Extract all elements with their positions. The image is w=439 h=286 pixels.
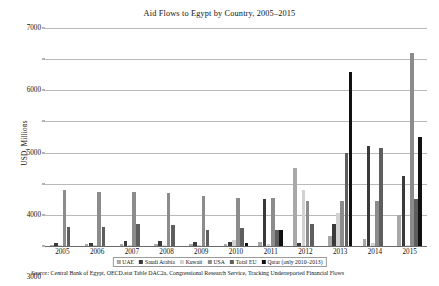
- x-tick-label: 2005: [55, 248, 69, 256]
- legend-label: Qatar (only 2010–2013): [267, 259, 322, 265]
- bar: [332, 224, 336, 246]
- bar: [154, 244, 158, 246]
- bar: [397, 215, 401, 246]
- bar: [275, 230, 279, 246]
- bar: [167, 193, 171, 246]
- bar: [236, 198, 240, 246]
- bar: [375, 201, 379, 246]
- bar: [85, 244, 89, 246]
- chart-title: Aid Flows to Egypt by Country, 2005–2015: [0, 9, 439, 18]
- bar: [402, 176, 406, 246]
- chart-legend: UAESaudi ArabiaKuwaitUSATotal EUQatar (o…: [112, 257, 326, 267]
- bar-group: [288, 28, 323, 246]
- bar-group: [184, 28, 219, 246]
- bar: [340, 201, 344, 246]
- bar: [120, 244, 124, 246]
- bar: [302, 190, 306, 246]
- bar: [163, 245, 167, 246]
- x-tick-label: 2015: [402, 248, 416, 256]
- bar: [132, 192, 136, 247]
- bar: [349, 72, 353, 246]
- legend-swatch-icon: [261, 260, 265, 264]
- source-prefix: Source:: [31, 270, 49, 276]
- bar: [371, 243, 375, 246]
- x-tick-label: 2011: [264, 248, 278, 256]
- x-tick-label: 2008: [159, 248, 173, 256]
- y-tick-label: 5000: [27, 149, 41, 157]
- bar: [267, 244, 271, 246]
- legend-item[interactable]: UAE: [116, 259, 134, 265]
- bar: [93, 245, 97, 246]
- bar: [232, 240, 236, 246]
- legend-label: Saudi Arabia: [145, 259, 175, 265]
- bar: [54, 243, 58, 246]
- bar: [306, 201, 310, 246]
- bar: [379, 148, 383, 246]
- y-axis-title: USD, Millions: [20, 120, 29, 166]
- bar: [414, 199, 418, 246]
- bar: [363, 239, 367, 246]
- x-tick-label: 2010: [229, 248, 243, 256]
- bar: [97, 192, 101, 247]
- legend-swatch-icon: [116, 260, 120, 264]
- x-tick-label: 2014: [368, 248, 382, 256]
- legend-label: Kuwait: [186, 259, 203, 265]
- legend-item[interactable]: Total EU: [230, 259, 257, 265]
- x-tick-label: 2009: [194, 248, 208, 256]
- bar-group: [114, 28, 149, 246]
- legend-item[interactable]: Kuwait: [180, 259, 203, 265]
- bar: [102, 227, 106, 246]
- bar: [245, 243, 249, 246]
- legend-swatch-icon: [180, 260, 184, 264]
- bar: [128, 245, 132, 246]
- source-note: Source: Central Bank of Egypt, OECD.stat…: [31, 270, 344, 276]
- chart-figure: Aid Flows to Egypt by Country, 2005–2015…: [0, 0, 439, 286]
- bar: [124, 241, 128, 246]
- bar: [410, 53, 414, 246]
- bar-group: [149, 28, 184, 246]
- bar: [310, 224, 314, 246]
- x-tick-label: 2006: [90, 248, 104, 256]
- bar: [367, 146, 371, 246]
- gridline: 0: [45, 246, 427, 247]
- source-text: Central Bank of Egypt, OECD.stat Table D…: [49, 270, 344, 276]
- bar: [345, 153, 349, 246]
- bar-group: [323, 28, 358, 246]
- x-tick-label: 2013: [333, 248, 347, 256]
- bar: [158, 241, 162, 246]
- bar: [89, 243, 93, 246]
- bar-group: [80, 28, 115, 246]
- legend-item[interactable]: USA: [207, 259, 224, 265]
- bar: [240, 228, 244, 246]
- y-tick-label: 6000: [27, 86, 41, 94]
- y-tick-label: 4000: [27, 211, 41, 219]
- bar: [406, 245, 410, 246]
- legend-item[interactable]: Qatar (only 2010–2013): [261, 259, 322, 265]
- bar: [136, 224, 140, 246]
- bar: [189, 244, 193, 246]
- bars-layer: [45, 28, 427, 246]
- bar: [67, 227, 71, 246]
- bar: [206, 230, 210, 246]
- bar: [297, 243, 301, 246]
- legend-label: UAE: [122, 259, 134, 265]
- x-tick-label: 2012: [298, 248, 312, 256]
- bar-group: [358, 28, 393, 246]
- bar: [197, 245, 201, 246]
- bar-group: [45, 28, 80, 246]
- bar-group: [219, 28, 254, 246]
- plot-area: 01000200030004000500060007000: [45, 28, 427, 246]
- bar-group: [392, 28, 427, 246]
- bar: [279, 230, 283, 246]
- bar: [202, 196, 206, 246]
- bar: [328, 236, 332, 246]
- bar: [271, 198, 275, 246]
- bar: [224, 244, 228, 246]
- legend-item[interactable]: Saudi Arabia: [139, 259, 175, 265]
- bar: [58, 245, 62, 246]
- x-tick-label: 2007: [125, 248, 139, 256]
- y-tick-label: 7000: [27, 24, 41, 32]
- legend-swatch-icon: [207, 260, 211, 264]
- legend-label: USA: [213, 259, 224, 265]
- legend-label: Total EU: [236, 259, 257, 265]
